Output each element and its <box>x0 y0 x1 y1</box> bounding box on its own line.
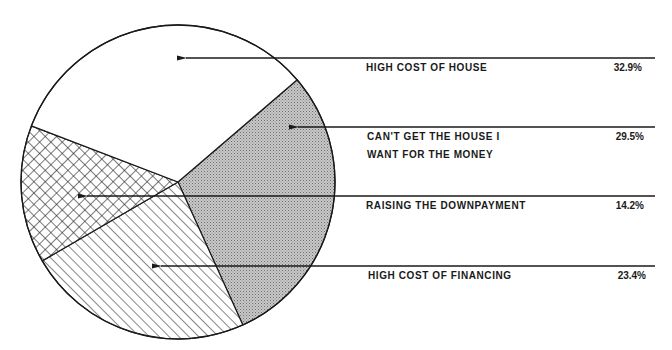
legend-label-high-cost-of-financing: HIGH COST OF FINANCING <box>368 267 512 285</box>
legend-pct-cant-get-house: 29.5% <box>584 128 644 146</box>
legend-pct-high-cost-of-house: 32.9% <box>582 59 642 77</box>
legend-label-raising-downpayment: RAISING THE DOWNPAYMENT <box>366 197 526 215</box>
legend-label-cant-get-house: CAN'T GET THE HOUSE I WANT FOR THE MONEY <box>367 128 500 164</box>
pie-slices <box>21 25 335 339</box>
legend-label-high-cost-of-house: HIGH COST OF HOUSE <box>366 59 487 77</box>
pie-chart <box>0 0 672 350</box>
legend-pct-raising-downpayment: 14.2% <box>584 197 644 215</box>
legend-pct-high-cost-of-financing: 23.4% <box>586 267 646 285</box>
